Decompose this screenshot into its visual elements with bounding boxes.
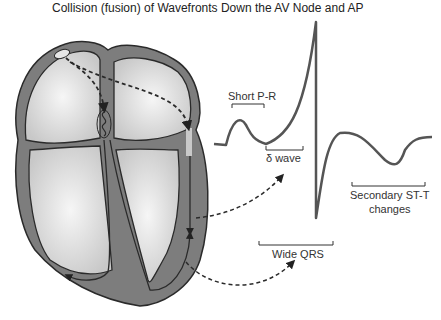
label-st-t-line2: changes [369,203,411,215]
bracket-delta-wave [266,146,303,150]
bracket-wide-qrs [259,241,333,245]
heart-illustration [16,42,208,306]
bracket-st-t [352,182,425,186]
label-st-t-line1: Secondary ST-T [350,189,429,201]
label-delta-wave: δ wave [266,152,301,164]
bracket-short-pr [232,104,264,108]
arrow-to-wide-qrs [186,262,292,285]
diagram-canvas [0,0,441,320]
label-wide-qrs: Wide QRS [272,248,324,260]
label-short-pr: Short P-R [228,90,276,102]
accessory-pathway [186,128,192,156]
arrow-to-delta-wave [196,177,281,218]
